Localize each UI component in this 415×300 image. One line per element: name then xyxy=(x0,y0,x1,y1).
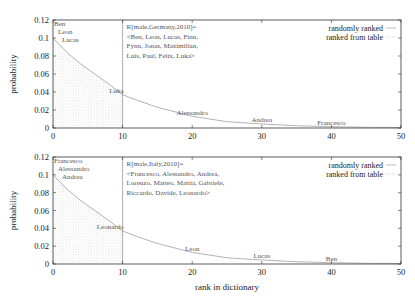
y-axis-label: probability xyxy=(8,190,18,230)
y-tick-label: 0.06 xyxy=(34,69,49,79)
legend-label: randomly ranked xyxy=(329,24,383,33)
ranking-annotation: Luis, Paul, Felix, Luka> xyxy=(127,52,195,60)
point-label: Leon xyxy=(185,245,200,253)
x-tick-label: 10 xyxy=(118,267,127,277)
chart-panel-bottom: 00.020.040.060.080.10.1201020304050proba… xyxy=(8,152,405,292)
ranking-annotation: R[male,Italy,2010]= xyxy=(127,160,184,168)
y-tick-label: 0.12 xyxy=(34,152,49,162)
point-label: Andrea xyxy=(62,173,83,181)
randomly-ranked-curve xyxy=(53,38,401,128)
y-tick-label: 0.02 xyxy=(34,241,49,251)
point-label: Ben xyxy=(54,20,66,28)
point-label: Ben xyxy=(326,255,338,263)
y-tick-label: 0.1 xyxy=(38,33,49,43)
y-tick-label: 0.04 xyxy=(34,87,50,97)
chart-panel-top: 00.020.040.060.080.10.1201020304050proba… xyxy=(8,15,405,141)
legend-label: ranked from table xyxy=(326,170,383,179)
ranking-annotation: <Ben, Leon, Lucas, Finn, xyxy=(127,33,199,41)
y-axis-label: probability xyxy=(8,54,18,94)
point-label: Andrea xyxy=(251,116,272,124)
randomly-ranked-curve xyxy=(53,175,401,264)
y-tick-label: 0.08 xyxy=(34,51,49,61)
x-tick-label: 30 xyxy=(258,131,267,141)
ranking-annotation: Fynn, Jonas, Maximilian, xyxy=(127,42,199,50)
y-tick-label: 0.12 xyxy=(34,15,49,25)
ranked-from-table-fill xyxy=(53,40,123,128)
y-tick-label: 0.08 xyxy=(34,188,49,198)
point-label: Luka xyxy=(109,87,124,95)
ranking-annotation: Riccardo, Davide, Leonardo> xyxy=(127,189,210,197)
x-tick-label: 20 xyxy=(188,131,197,141)
ranking-annotation: <Francesco, Alessandro, Andrea, xyxy=(127,170,220,178)
x-tick-label: 50 xyxy=(397,267,406,277)
point-label: Francesco xyxy=(54,157,83,165)
x-tick-label: 50 xyxy=(397,131,406,141)
x-tick-label: 0 xyxy=(51,267,55,277)
x-tick-label: 40 xyxy=(327,267,336,277)
ranking-annotation: Lorenzo, Matteo, Mattia, Gabriele, xyxy=(127,179,225,187)
x-tick-label: 10 xyxy=(118,131,127,141)
x-axis-label: rank in dictionary xyxy=(195,282,259,292)
x-tick-label: 20 xyxy=(188,267,197,277)
point-label: Leon xyxy=(58,28,73,36)
point-label: Alessandro xyxy=(58,165,90,173)
y-tick-label: 0 xyxy=(45,259,49,269)
x-tick-label: 40 xyxy=(327,131,336,141)
y-tick-label: 0.06 xyxy=(34,206,49,216)
ranking-annotation: R[male,Germany,2010]= xyxy=(127,23,197,31)
x-tick-label: 0 xyxy=(51,131,55,141)
x-tick-label: 30 xyxy=(258,267,267,277)
legend-label: randomly ranked xyxy=(329,161,383,170)
point-label: Alessandro xyxy=(176,109,208,117)
point-label: Leonardo xyxy=(97,223,124,231)
y-tick-label: 0.04 xyxy=(34,223,50,233)
legend-label: ranked from table xyxy=(326,33,383,42)
chart-figure: 00.020.040.060.080.10.1201020304050proba… xyxy=(0,0,415,300)
y-tick-label: 0 xyxy=(45,123,49,133)
point-label: Lucas xyxy=(62,36,79,44)
y-tick-label: 0.1 xyxy=(38,170,49,180)
point-label: Lucas xyxy=(253,252,270,260)
point-label: Francesco xyxy=(317,119,346,127)
y-tick-label: 0.02 xyxy=(34,105,49,115)
ranked-from-table-fill xyxy=(53,177,123,264)
